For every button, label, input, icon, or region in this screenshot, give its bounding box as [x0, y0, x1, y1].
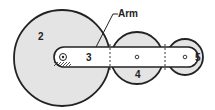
gear-4-label: 4 [135, 69, 141, 80]
arm-3 [54, 47, 198, 67]
arm-callout-label: Arm [118, 8, 138, 19]
arm-3-label: 3 [86, 52, 92, 63]
gear-2-label: 2 [38, 31, 44, 42]
gear-train-diagram: Arm 2 3 4 5 [0, 0, 215, 110]
gear-5-label: 5 [195, 52, 201, 63]
